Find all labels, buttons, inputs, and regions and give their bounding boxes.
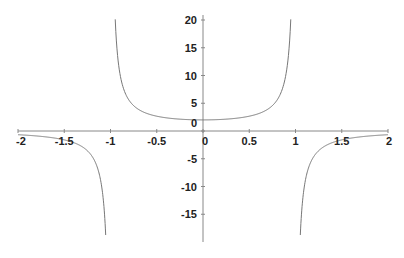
y-tick-label: 15 bbox=[185, 42, 197, 54]
left-branch-curve bbox=[18, 135, 106, 235]
y-tick-label: 0 bbox=[191, 117, 197, 129]
y-tick-label: 10 bbox=[185, 70, 197, 82]
x-tick-label: 0 bbox=[202, 135, 208, 147]
x-tick-labels: -2-1.5-1-0.500.511.52 bbox=[16, 135, 392, 147]
x-tick-label: -0.5 bbox=[147, 135, 166, 147]
x-tick-label: 1.5 bbox=[334, 135, 349, 147]
y-tick-labels: 20151050-5-10-15 bbox=[181, 14, 197, 220]
y-tick-label: 5 bbox=[191, 97, 197, 109]
x-tick-label: -1.5 bbox=[55, 135, 74, 147]
y-tick-label: -15 bbox=[181, 208, 197, 220]
x-tick-label: -1 bbox=[106, 135, 116, 147]
x-tick-label: 2 bbox=[386, 135, 392, 147]
x-tick-label: -2 bbox=[16, 135, 26, 147]
y-tick-label: 20 bbox=[185, 14, 197, 26]
x-tick-label: 1 bbox=[292, 135, 298, 147]
y-tick-label: -10 bbox=[181, 181, 197, 193]
function-plot: -2-1.5-1-0.500.511.52 20151050-5-10-15 bbox=[0, 0, 404, 258]
right-branch-curve bbox=[300, 135, 388, 235]
x-tick-label: 0.5 bbox=[242, 135, 257, 147]
axes bbox=[18, 15, 388, 242]
y-tick-label: -5 bbox=[187, 153, 197, 165]
